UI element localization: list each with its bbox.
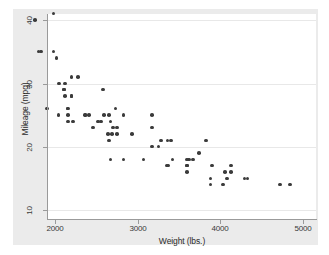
data-point [52, 12, 56, 16]
data-point [209, 177, 213, 181]
y-axis-line [47, 14, 48, 220]
data-point [122, 158, 126, 162]
x-tick-label-3000: 3000 [118, 224, 158, 233]
data-point [70, 75, 74, 79]
x-tick-label-5000: 5000 [283, 224, 323, 233]
data-point [229, 164, 233, 168]
data-point [204, 139, 208, 143]
data-point [109, 158, 113, 162]
data-point [110, 132, 114, 136]
data-point [33, 18, 37, 22]
data-point [71, 120, 75, 124]
data-point [70, 94, 74, 98]
data-point [130, 132, 134, 136]
y-tick-label-40: 40 [25, 10, 34, 32]
data-point [109, 120, 113, 124]
data-point [39, 50, 43, 54]
data-point [278, 183, 282, 187]
x-axis-line [47, 219, 317, 220]
data-point [122, 113, 126, 117]
data-point [142, 158, 146, 162]
data-point [150, 126, 154, 130]
x-tick-label-4000: 4000 [200, 224, 240, 233]
data-point [185, 170, 189, 174]
data-point [87, 113, 91, 117]
data-point [57, 113, 61, 117]
data-point [209, 183, 213, 187]
y-tick-40 [43, 20, 47, 21]
data-point [169, 139, 173, 143]
data-point [229, 170, 233, 174]
data-point [63, 82, 67, 86]
data-point [171, 158, 175, 162]
data-point [246, 177, 250, 181]
data-point [223, 170, 227, 174]
data-point [55, 56, 59, 60]
data-point [76, 75, 80, 79]
data-point [66, 107, 70, 111]
graph-region [13, 9, 318, 245]
data-point [57, 82, 61, 86]
data-point [91, 126, 95, 130]
data-point [62, 88, 66, 92]
data-point [221, 183, 225, 187]
scatter-plot-screenshot: 40 30 20 10 2000 3000 4000 5000 Mileage … [0, 0, 329, 255]
y-tick-label-10: 10 [25, 200, 34, 222]
data-point [66, 120, 70, 124]
data-point [115, 132, 119, 136]
data-point [115, 126, 119, 130]
data-point [159, 139, 163, 143]
x-tick-label-2000: 2000 [35, 224, 75, 233]
data-point [102, 113, 106, 117]
data-point [101, 88, 105, 92]
data-point [150, 113, 154, 117]
data-point [191, 158, 195, 162]
data-point [166, 164, 170, 168]
data-point [66, 113, 70, 117]
data-point [107, 113, 111, 117]
data-point [157, 145, 161, 149]
data-point [114, 107, 118, 111]
data-point [288, 183, 292, 187]
y-tick-20 [43, 147, 47, 148]
y-tick-30 [43, 84, 47, 85]
y-axis-title: Mileage (mpg) [20, 64, 30, 154]
data-point [106, 132, 110, 136]
data-point [52, 50, 56, 54]
data-point [225, 177, 229, 181]
data-point [111, 126, 115, 130]
data-point [185, 164, 189, 168]
data-point [96, 120, 100, 124]
y-tick-10 [43, 210, 47, 211]
data-point [210, 164, 214, 168]
data-markers-layer [13, 9, 318, 245]
data-point [107, 139, 111, 143]
data-point [150, 145, 154, 149]
data-point [197, 151, 201, 155]
data-point [185, 158, 189, 162]
x-axis-title: Weight (lbs.) [47, 236, 317, 246]
data-point [63, 94, 67, 98]
